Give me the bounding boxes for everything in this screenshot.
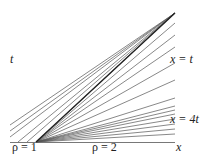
characteristics-diagram (0, 0, 207, 162)
left-line (10, 13, 175, 131)
rho-right-label: ρ = 2 (92, 141, 117, 153)
x-equals-4t-label: x = 4t (170, 113, 199, 125)
x-equals-t-label: x = t (170, 53, 193, 65)
rho-left-label: ρ = 1 (12, 141, 37, 153)
left-line (10, 13, 175, 137)
x-axis-label: x (176, 141, 181, 153)
left-characteristic-lines (10, 13, 175, 142)
t-axis-label: t (10, 53, 13, 65)
left-line (10, 13, 175, 125)
